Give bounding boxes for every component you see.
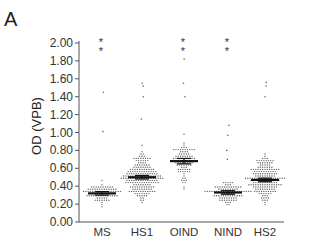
data-point [96,186,97,187]
data-point [94,200,95,201]
data-point [257,167,258,168]
data-point [136,160,137,161]
data-point [259,160,260,161]
data-point [147,180,148,181]
outlier-point [226,150,228,152]
data-point [156,180,157,181]
data-point [111,191,112,192]
data-point [142,167,143,168]
data-point [189,169,190,170]
data-point [130,186,131,187]
data-point [132,186,133,187]
data-point [194,149,195,150]
data-point [256,178,257,179]
data-point [270,191,271,192]
data-point [93,195,94,196]
data-point [129,173,130,174]
data-point [129,180,130,181]
data-point [115,189,116,190]
data-point [263,171,264,172]
data-point [157,182,158,183]
data-point [230,182,231,183]
data-point [134,186,135,187]
data-point [141,182,142,183]
data-point [284,178,285,179]
data-point [264,175,265,176]
data-point [272,171,273,172]
data-point [274,173,275,174]
data-point [265,191,266,192]
data-point [261,160,262,161]
data-point [160,175,161,176]
data-point [239,195,240,196]
data-point [227,202,228,203]
data-point [141,151,142,152]
data-point [141,171,142,172]
data-point [183,147,184,148]
data-point [126,173,127,174]
data-point [140,162,141,163]
data-point [260,184,261,185]
data-point [144,182,145,183]
data-point [271,184,272,185]
data-point [217,186,218,187]
data-point [186,153,187,154]
data-point [264,189,265,190]
data-point [180,171,181,172]
data-point [268,191,269,192]
data-point [230,184,231,185]
data-point [282,178,283,179]
data-point [276,184,277,185]
data-point [270,193,271,194]
data-point [267,164,268,165]
data-point [104,200,105,201]
data-point [131,180,132,181]
data-point [268,193,269,194]
data-point [107,186,108,187]
data-point [267,186,268,187]
data-point [129,191,130,192]
data-point [260,167,261,168]
data-point [269,164,270,165]
data-point [263,197,264,198]
data-point [224,186,225,187]
data-point [142,162,143,163]
data-point [194,158,195,159]
data-point [97,200,98,201]
y-tick-label: 2.00 [50,36,74,50]
data-point [137,189,138,190]
data-point [139,169,140,170]
data-point [259,193,260,194]
data-point [267,173,268,174]
data-point [247,178,248,179]
data-point [133,173,134,174]
y-tick-label: 1.20 [50,108,74,122]
y-tick-label: 0.00 [50,215,74,229]
data-point [184,182,185,183]
data-point [112,195,113,196]
data-point [182,178,183,179]
data-point [230,195,231,196]
data-point [264,186,265,187]
data-point [101,184,102,185]
data-point [249,178,250,179]
data-point [262,167,263,168]
data-point [263,160,264,161]
data-point [264,162,265,163]
data-point [149,173,150,174]
data-point [175,149,176,150]
data-point [144,156,145,157]
data-point [254,178,255,179]
data-point [255,169,256,170]
data-point [138,160,139,161]
data-point [140,160,141,161]
data-point [144,186,145,187]
data-point [264,164,265,165]
data-point [142,197,143,198]
data-point [114,195,115,196]
data-point [134,171,135,172]
data-point [136,184,137,185]
y-tick-label: 0.60 [50,161,74,175]
data-point [269,167,270,168]
data-point [139,182,140,183]
